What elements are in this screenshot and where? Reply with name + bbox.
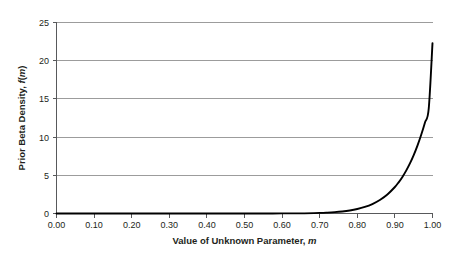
x-tick-label-0.40: 0.40 <box>198 220 216 230</box>
x-tick-label-0.00: 0.00 <box>48 220 66 230</box>
y-tick-label-5: 5 <box>44 171 49 181</box>
prior-beta-density-chart: 0 5 10 15 20 25 0.00 0.10 0.20 0.30 0.40… <box>0 0 461 255</box>
y-axis-title-paren-close: ) <box>16 66 27 69</box>
x-tick-label-0.20: 0.20 <box>123 220 141 230</box>
x-tick-label-0.60: 0.60 <box>273 220 291 230</box>
x-tick-label-0.80: 0.80 <box>349 220 367 230</box>
y-axis-title-text: Prior Beta Density, <box>16 86 27 170</box>
x-tick-label-0.30: 0.30 <box>161 220 179 230</box>
y-axis-title: Prior Beta Density, f(m) <box>16 66 27 171</box>
x-tick-label-0.10: 0.10 <box>85 220 103 230</box>
x-tick-label-1.00: 1.00 <box>424 220 442 230</box>
x-axis-title-variable: m <box>308 235 317 246</box>
x-axis-title-text: Value of Unknown Parameter, <box>172 235 305 246</box>
y-tick-label-20: 20 <box>39 56 49 66</box>
y-tick-label-25: 25 <box>39 18 49 28</box>
y-tick-label-0: 0 <box>44 209 49 219</box>
chart-canvas: 0 5 10 15 20 25 0.00 0.10 0.20 0.30 0.40… <box>0 0 461 255</box>
x-axis-title: Value of Unknown Parameter, m <box>172 235 317 246</box>
chart-background <box>0 0 461 255</box>
x-tick-label-0.50: 0.50 <box>236 220 254 230</box>
x-tick-label-0.70: 0.70 <box>311 220 329 230</box>
y-tick-label-15: 15 <box>39 94 49 104</box>
x-tick-label-0.90: 0.90 <box>386 220 404 230</box>
y-tick-label-10: 10 <box>39 133 49 143</box>
